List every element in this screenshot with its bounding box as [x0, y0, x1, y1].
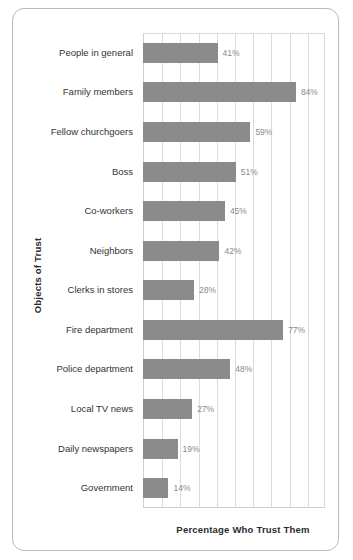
x-axis-title: Percentage Who Trust Them [143, 524, 343, 535]
bar-value-label: 27% [197, 390, 214, 428]
category-label: People in general [0, 34, 133, 72]
bar[interactable] [143, 439, 178, 459]
bar-row: Fellow churchgoers59% [0, 113, 353, 151]
bar-row: Fire department77% [0, 311, 353, 349]
bar[interactable] [143, 162, 236, 182]
bar-row: Daily newspapers19% [0, 430, 353, 468]
bar-value-label: 51% [241, 153, 258, 191]
category-label: Neighbors [0, 232, 133, 270]
bar-value-label: 77% [288, 311, 305, 349]
bar-value-label: 45% [230, 192, 247, 230]
bar[interactable] [143, 280, 194, 300]
category-label: Police department [0, 350, 133, 388]
bar-row: Clerks in stores28% [0, 271, 353, 309]
bar-container: 59% [143, 113, 353, 151]
category-label: Fire department [0, 311, 133, 349]
bar-row: Family members84% [0, 73, 353, 111]
bar[interactable] [143, 241, 219, 261]
category-label: Local TV news [0, 390, 133, 428]
bar-row: Neighbors42% [0, 232, 353, 270]
bar[interactable] [143, 82, 296, 102]
bar-value-label: 59% [255, 113, 272, 151]
bar-container: 48% [143, 350, 353, 388]
bar-row: Local TV news27% [0, 390, 353, 428]
bar-row: People in general41% [0, 34, 353, 72]
bar-container: 84% [143, 73, 353, 111]
bar[interactable] [143, 478, 168, 498]
bar[interactable] [143, 43, 218, 63]
bar-value-label: 48% [235, 350, 252, 388]
bar-value-label: 41% [223, 34, 240, 72]
chart-page: Objects of Trust People in general41%Fam… [0, 0, 353, 560]
bar-value-label: 14% [173, 469, 190, 507]
bar-row: Co-workers45% [0, 192, 353, 230]
bar[interactable] [143, 122, 250, 142]
bar-container: 42% [143, 232, 353, 270]
bar[interactable] [143, 359, 230, 379]
bar[interactable] [143, 201, 225, 221]
category-label: Clerks in stores [0, 271, 133, 309]
bar-value-label: 42% [224, 232, 241, 270]
category-label: Fellow churchgoers [0, 113, 133, 151]
category-label: Co-workers [0, 192, 133, 230]
category-label: Family members [0, 73, 133, 111]
bar-row: Police department48% [0, 350, 353, 388]
bar-row: Government14% [0, 469, 353, 507]
bar-container: 19% [143, 430, 353, 468]
bar-value-label: 28% [199, 271, 216, 309]
bar-container: 45% [143, 192, 353, 230]
bar-value-label: 84% [301, 73, 318, 111]
category-label: Boss [0, 153, 133, 191]
bar-container: 51% [143, 153, 353, 191]
bar-container: 77% [143, 311, 353, 349]
bar-container: 41% [143, 34, 353, 72]
category-label: Government [0, 469, 133, 507]
bar-row: Boss51% [0, 153, 353, 191]
bar-value-label: 19% [183, 430, 200, 468]
bar-container: 28% [143, 271, 353, 309]
bar-container: 27% [143, 390, 353, 428]
category-label: Daily newspapers [0, 430, 133, 468]
bar[interactable] [143, 320, 283, 340]
bar[interactable] [143, 399, 192, 419]
bar-container: 14% [143, 469, 353, 507]
